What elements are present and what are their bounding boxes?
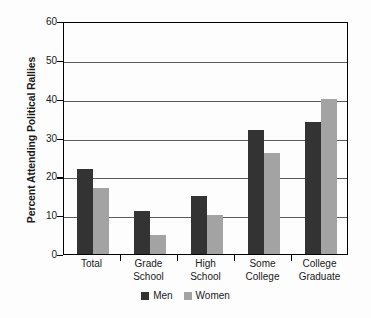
bar-group — [121, 23, 178, 254]
chart-legend: MenWomen — [0, 290, 371, 301]
x-axis-category-label: GradeSchool — [120, 258, 177, 283]
bar-women — [264, 153, 280, 254]
bar-group — [64, 23, 121, 254]
plot-area — [63, 22, 348, 255]
x-axis-category-label: SomeCollege — [234, 258, 291, 283]
bar-men — [77, 169, 93, 254]
bar-chart-figure: Percent Attending Political Rallies 0102… — [0, 0, 371, 318]
bar-men — [248, 130, 264, 254]
plot-inner — [64, 23, 347, 254]
x-axis-category-labels: TotalGradeSchoolHighSchoolSomeCollegeCol… — [63, 258, 348, 290]
bar-men — [305, 122, 321, 254]
bar-group — [178, 23, 235, 254]
legend-swatch-icon — [141, 292, 149, 300]
bar-group — [235, 23, 292, 254]
legend-item-women[interactable]: Women — [184, 290, 230, 301]
bar-women — [321, 99, 337, 254]
bar-group — [292, 23, 349, 254]
legend-label: Men — [153, 290, 172, 301]
bar-men — [134, 211, 150, 254]
bar-women — [207, 215, 223, 254]
bar-men — [191, 196, 207, 254]
legend-swatch-icon — [184, 292, 192, 300]
bar-women — [93, 188, 109, 254]
legend-item-men[interactable]: Men — [141, 290, 172, 301]
x-axis-category-label: CollegeGraduate — [291, 258, 348, 283]
x-axis-category-label: HighSchool — [177, 258, 234, 283]
legend-label: Women — [196, 290, 230, 301]
y-axis-tick-marks — [0, 22, 63, 255]
bar-women — [150, 235, 166, 254]
x-axis-category-label: Total — [63, 258, 120, 271]
